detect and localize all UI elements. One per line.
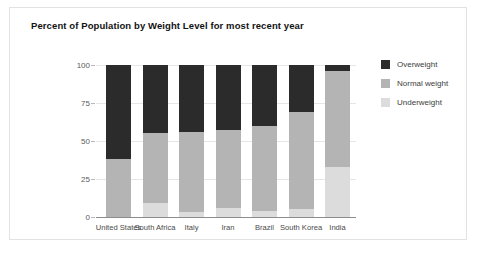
chart-legend: OverweightNormal weightUnderweight [381,60,448,117]
bar-segment-over [325,65,350,71]
gridline-0 [96,217,356,218]
bar-segment-over [179,65,204,132]
y-tick-mark-25 [91,179,95,180]
x-axis-label-india: India [315,223,361,232]
bar-brazil[interactable]: Brazil [252,65,277,217]
bar-segment-normal [143,133,168,203]
bar-united-states[interactable]: United States [106,65,131,217]
bar-segment-normal [252,126,277,211]
bar-segment-under [325,167,350,217]
bar-segment-over [289,65,314,112]
bar-italy[interactable]: Italy [179,65,204,217]
legend-label-underweight: Underweight [397,98,442,107]
bar-segment-under [179,212,204,217]
y-tick-label-25: 25 [81,175,90,184]
bar-segment-under [143,203,168,217]
legend-swatch-overweight [381,60,390,69]
bar-segment-normal [179,132,204,213]
bar-segment-normal [216,130,241,208]
y-tick-label-0: 0 [86,213,90,222]
y-tick-mark-0 [91,217,95,218]
bar-segment-normal [289,112,314,209]
y-tick-mark-50 [91,141,95,142]
legend-label-normal: Normal weight [397,79,448,88]
legend-swatch-normal [381,79,390,88]
legend-item-underweight[interactable]: Underweight [381,98,448,107]
bar-segment-over [252,65,277,126]
y-tick-label-75: 75 [81,99,90,108]
y-tick-label-50: 50 [81,137,90,146]
bar-segment-over [106,65,131,159]
bar-iran[interactable]: Iran [216,65,241,217]
bar-south-korea[interactable]: South Korea [289,65,314,217]
chart-card: Percent of Population by Weight Level fo… [9,7,467,240]
y-tick-label-100: 100 [77,61,90,70]
bar-segment-under [216,208,241,217]
y-tick-mark-100 [91,65,95,66]
chart-title: Percent of Population by Weight Level fo… [31,20,304,31]
legend-swatch-underweight [381,98,390,107]
legend-item-normal[interactable]: Normal weight [381,79,448,88]
bar-segment-over [143,65,168,133]
bar-india[interactable]: India [325,65,350,217]
plot-area: 0255075100 United StatesSouth AfricaItal… [96,65,356,217]
legend-label-overweight: Overweight [397,60,437,69]
bar-south-africa[interactable]: South Africa [143,65,168,217]
bar-segment-under [252,211,277,217]
bar-segment-normal [106,159,131,217]
bar-segment-normal [325,71,350,167]
bar-segment-under [289,209,314,217]
y-tick-mark-75 [91,103,95,104]
legend-item-overweight[interactable]: Overweight [381,60,448,69]
bar-segment-over [216,65,241,130]
